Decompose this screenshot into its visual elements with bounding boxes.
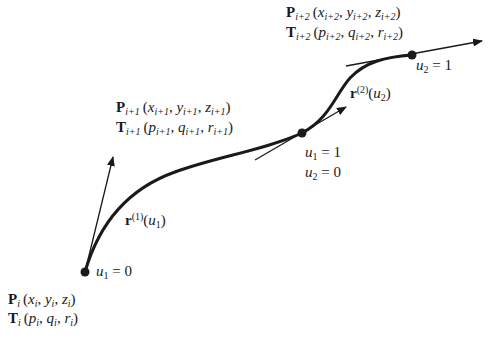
label-t-i1: Ti+1 (pi+1, qi+1, ri+1) [116,118,233,136]
tangent-vector-i [85,157,113,272]
label-p-i1: Pi+1 (xi+1, yi+1, zi+1) [116,98,231,116]
point-p-i1 [298,129,307,138]
label-p-i2: Pi+2 (xi+2, yi+2, zi+2) [286,3,401,21]
label-p-i: Pi (xi, yi, zi) [8,290,76,308]
label-u2-eq-0: u2 = 0 [305,163,341,181]
label-u1-eq-1: u1 = 1 [305,143,341,161]
label-r1-u1: r(1)(u1) [125,211,166,229]
label-u2-eq-1: u2 = 1 [416,56,452,74]
point-p-i [81,268,90,277]
label-t-i: Ti (pi, qi, ri) [8,309,78,327]
label-r2-u2: r(2)(u2) [350,84,391,102]
label-t-i2: Ti+2 (pi+2, qi+2, ri+2) [286,23,403,41]
curve-segment-1 [85,133,302,272]
label-u1-eq-0: u1 = 0 [96,262,132,280]
